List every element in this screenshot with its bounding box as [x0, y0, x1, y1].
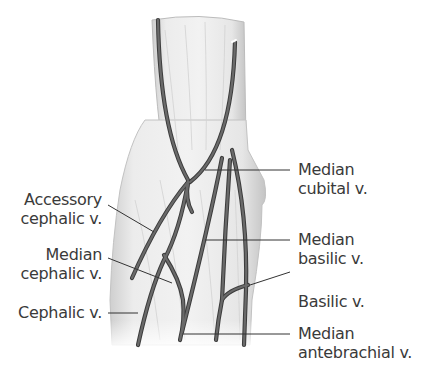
label-median-basilic-vein: Median basilic v. [298, 230, 364, 268]
label-accessory-cephalic-vein: Accessory cephalic v. [20, 190, 102, 228]
label-median-antebrachial-vein: Median antebrachial v. [298, 324, 412, 362]
label-cephalic-vein: Cephalic v. [18, 303, 102, 322]
label-median-cubital-vein: Median cubital v. [298, 160, 367, 198]
label-median-cephalic-vein: Median cephalic v. [20, 245, 102, 283]
label-basilic-vein: Basilic v. [298, 292, 365, 311]
